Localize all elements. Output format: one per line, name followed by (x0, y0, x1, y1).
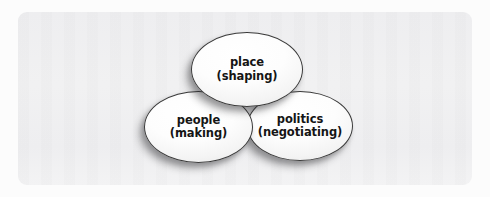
diagram-node-people-label: people (making) (170, 114, 227, 141)
figure-canvas: politics (negotiating) people (making) p… (0, 0, 490, 197)
diagram-node-place: place (shaping) (191, 32, 303, 107)
diagram-node-place-subtitle: (shaping) (217, 70, 278, 84)
diagram-node-place-label: place (shaping) (217, 56, 278, 83)
diagram-node-place-title: place (230, 55, 264, 69)
diagram-node-politics-label: politics (negotiating) (258, 113, 342, 140)
diagram-node-people-subtitle: (making) (170, 127, 227, 141)
venn-diagram: politics (negotiating) people (making) p… (0, 0, 490, 197)
diagram-node-politics-title: politics (277, 112, 323, 126)
diagram-node-people-title: people (177, 113, 220, 127)
diagram-node-politics-subtitle: (negotiating) (258, 126, 342, 140)
